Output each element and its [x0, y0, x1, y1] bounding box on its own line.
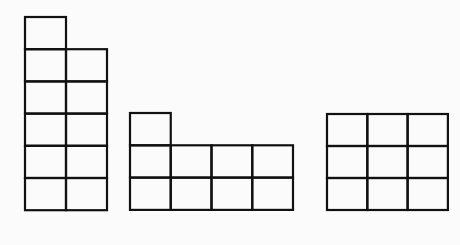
- unit-square: [25, 81, 66, 113]
- unit-square: [327, 178, 367, 210]
- unit-square: [212, 178, 253, 210]
- unit-square: [66, 49, 107, 81]
- unit-square: [408, 114, 448, 146]
- unit-square: [171, 178, 212, 210]
- unit-square: [25, 146, 66, 178]
- unit-square: [25, 178, 66, 210]
- unit-square: [367, 178, 407, 210]
- unit-square: [367, 146, 407, 178]
- unit-square: [327, 146, 367, 178]
- unit-square: [66, 178, 107, 210]
- unit-square: [130, 145, 171, 177]
- square-figures-diagram: [0, 0, 460, 245]
- unit-square: [212, 145, 253, 177]
- unit-square: [408, 146, 448, 178]
- unit-square: [25, 17, 66, 49]
- unit-square: [66, 114, 107, 146]
- unit-square: [130, 178, 171, 210]
- unit-square: [25, 114, 66, 146]
- unit-square: [367, 114, 407, 146]
- unit-square: [252, 178, 293, 210]
- unit-square: [171, 145, 212, 177]
- unit-square: [25, 49, 66, 81]
- unit-square: [252, 145, 293, 177]
- unit-square: [66, 146, 107, 178]
- figure-2: [130, 113, 293, 210]
- unit-square: [130, 113, 171, 145]
- unit-square: [327, 114, 367, 146]
- figure-3: [327, 114, 448, 210]
- figure-1: [25, 17, 107, 210]
- unit-square: [408, 178, 448, 210]
- unit-square: [66, 81, 107, 113]
